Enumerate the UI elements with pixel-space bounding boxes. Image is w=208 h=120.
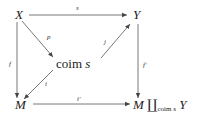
label-f-prime: f′ — [143, 62, 146, 69]
pushout-subscript: coim s — [157, 105, 175, 113]
node-coim-s: coim s — [56, 57, 90, 70]
node-x: X — [15, 8, 23, 21]
coim-variable: s — [85, 56, 90, 71]
coproduct-symbol: ∐ — [147, 97, 157, 112]
node-pushout: M ∐coim s Y — [133, 98, 186, 116]
pushout-right: Y — [179, 97, 186, 112]
pushout-left: M — [133, 97, 144, 112]
commutative-diagram: X Y coim s M M ∐coim s Y s p j f i i′ f′ — [0, 0, 208, 120]
label-i-prime: i′ — [77, 96, 80, 103]
label-i: i — [45, 81, 47, 88]
label-p: p — [47, 34, 51, 41]
label-j: j — [104, 39, 106, 46]
node-y: Y — [133, 8, 140, 21]
label-s: s — [76, 5, 79, 12]
label-f: f — [9, 61, 11, 68]
node-m: M — [15, 98, 26, 111]
arrow-i — [24, 70, 53, 99]
coim-operator: coim — [56, 56, 82, 71]
